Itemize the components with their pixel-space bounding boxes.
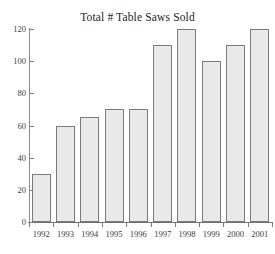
x-axis-tick-label-2000: 2000: [223, 229, 247, 239]
y-axis-tick-label: 40: [0, 153, 26, 163]
x-axis-tick-label-1996: 1996: [126, 229, 150, 239]
bar-1997: [153, 45, 172, 222]
bar-1993: [56, 126, 75, 223]
bar-1992: [32, 174, 51, 222]
bar-1996: [129, 109, 148, 222]
x-axis-tick: [126, 222, 127, 227]
x-axis-tick: [199, 222, 200, 227]
x-axis-tick-label-1998: 1998: [175, 229, 199, 239]
bar-1999: [202, 61, 221, 222]
x-axis-tick-label-1992: 1992: [29, 229, 53, 239]
x-axis-tick: [78, 222, 79, 227]
bar-1998: [177, 29, 196, 222]
bar-2001: [250, 29, 269, 222]
y-axis-tick: [30, 222, 34, 223]
x-axis-tick: [272, 222, 273, 227]
x-axis-tick-label-1994: 1994: [78, 229, 102, 239]
y-axis-tick-label: 80: [0, 88, 26, 98]
plot-area: [29, 29, 272, 222]
y-axis-tick-label: 100: [0, 56, 26, 66]
x-axis-tick: [53, 222, 54, 227]
x-axis-tick-label-1997: 1997: [151, 229, 175, 239]
chart-title: Total # Table Saws Sold: [0, 11, 275, 23]
x-axis-tick: [151, 222, 152, 227]
y-axis-tick-label: 0: [0, 217, 26, 227]
x-axis-tick-label-1995: 1995: [102, 229, 126, 239]
y-axis-tick-label: 120: [0, 24, 26, 34]
bar-2000: [226, 45, 245, 222]
bar-1994: [80, 117, 99, 222]
y-axis-tick-label: 60: [0, 121, 26, 131]
x-axis-tick-label-1999: 1999: [199, 229, 223, 239]
x-axis-tick-label-2001: 2001: [248, 229, 272, 239]
bar-chart: Total # Table Saws Sold 020406080100120 …: [0, 0, 275, 254]
x-axis-tick: [102, 222, 103, 227]
x-axis-tick: [175, 222, 176, 227]
x-axis-tick: [29, 222, 30, 227]
x-axis-tick: [248, 222, 249, 227]
y-axis-tick-label: 20: [0, 185, 26, 195]
x-axis-tick: [223, 222, 224, 227]
x-axis-tick-label-1993: 1993: [53, 229, 77, 239]
bar-1995: [105, 109, 124, 222]
